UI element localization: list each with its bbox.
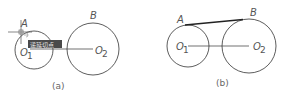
label-o2-sub: 2 [260, 45, 266, 55]
figure-b: A B O 1 O 2 (b) [167, 7, 276, 88]
tangent-line [185, 20, 243, 26]
label-o2-sub: 2 [102, 49, 108, 59]
label-b: B [90, 10, 97, 21]
label-o1-sub: 1 [183, 45, 189, 55]
snap-tooltip-text: 递延切点 [30, 41, 54, 49]
label-o1-sub: 1 [27, 51, 33, 61]
label-a: A [20, 18, 28, 29]
caption-b: (b) [216, 78, 229, 88]
figure-a: 递延切点 A B O 1 O 2 (a) [8, 10, 119, 91]
tangent-diagram: 递延切点 A B O 1 O 2 (a) A B O 1 O 2 (b) [0, 0, 284, 97]
label-a: A [176, 14, 184, 25]
caption-a: (a) [52, 81, 65, 91]
label-b: B [250, 7, 257, 18]
